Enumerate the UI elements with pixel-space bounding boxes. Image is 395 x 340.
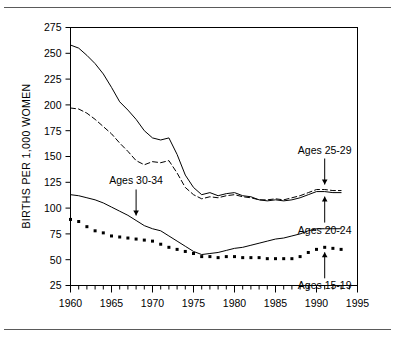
y-axis-tick-labels: 255075100125150175200225250275	[44, 21, 62, 291]
line-chart: 255075100125150175200225250275 196019651…	[0, 0, 395, 340]
x-tick-label: 1975	[182, 297, 206, 309]
y-axis-title: BIRTHS PER 1,000 WOMEN	[20, 83, 32, 228]
plot-frame	[71, 28, 358, 286]
annotation-label: Ages 25-29	[298, 144, 352, 156]
x-tick-label: 1960	[59, 297, 83, 309]
y-tick-label: 50	[50, 254, 62, 266]
y-tick-label: 125	[44, 176, 62, 188]
x-tick-label: 1980	[223, 297, 247, 309]
annotation-ages-20-24: Ages 20-24	[298, 197, 352, 236]
y-tick-label: 150	[44, 150, 62, 162]
y-tick-label: 275	[44, 21, 62, 33]
annotation-label: Ages 15-19	[298, 279, 352, 291]
annotation-ages-30-34: Ages 30-34	[109, 174, 163, 215]
annotation-layer: Ages 25-29Ages 20-24Ages 30-34Ages 15-19	[109, 144, 351, 292]
y-tick-label: 75	[50, 228, 62, 240]
y-tick-label: 100	[44, 202, 62, 214]
y-axis-ticks	[66, 28, 71, 286]
y-tick-label: 175	[44, 125, 62, 137]
x-tick-label: 1990	[305, 297, 329, 309]
y-tick-label: 25	[50, 279, 62, 291]
x-tick-label: 1985	[264, 297, 288, 309]
x-tick-label: 1995	[346, 297, 370, 309]
x-axis-tick-labels: 19601965197019751980198519901995	[59, 297, 370, 309]
annotation-ages-25-29: Ages 25-29	[298, 144, 352, 185]
y-tick-label: 225	[44, 73, 62, 85]
figure-container: 255075100125150175200225250275 196019651…	[0, 0, 395, 340]
x-tick-label: 1965	[100, 297, 124, 309]
x-tick-label: 1970	[141, 297, 165, 309]
plot-border	[71, 28, 358, 286]
annotation-label: Ages 20-24	[298, 224, 352, 236]
y-tick-label: 200	[44, 99, 62, 111]
annotation-label: Ages 30-34	[109, 174, 163, 186]
y-tick-label: 250	[44, 47, 62, 59]
annotation-ages-15-19: Ages 15-19	[298, 252, 352, 291]
